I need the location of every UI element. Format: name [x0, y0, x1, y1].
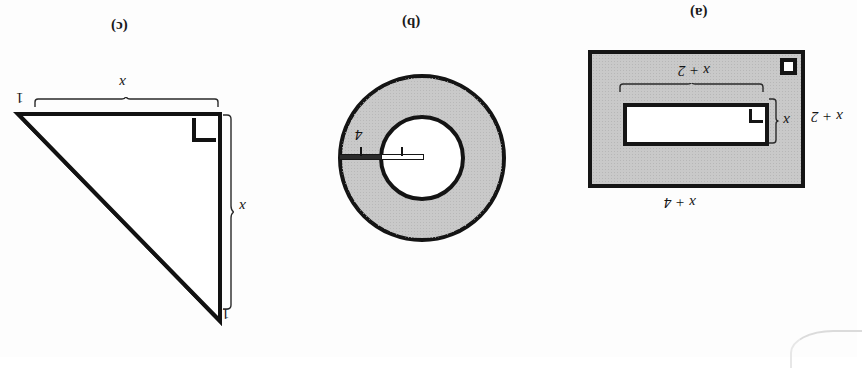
part-label-c: (c): [111, 18, 128, 35]
triangle-shape-c: [4, 112, 234, 337]
dimension-brace-inner-height-a: [768, 98, 779, 144]
part-label-b: (b): [402, 14, 420, 31]
dimension-label-vertical-leg-c: x: [239, 198, 246, 215]
right-angle-marker-inner-a: [749, 109, 763, 123]
dimension-brace-inner-width-a: [619, 83, 764, 93]
tick-ring-width-b: [360, 147, 362, 156]
dimension-label-horizontal-leg-c: x: [119, 74, 126, 91]
dimension-label-inner-height-a: x: [783, 112, 790, 129]
dimension-label-outer-width-a: x + 4: [664, 194, 696, 211]
tick-inner-radius-b: [401, 147, 403, 156]
dimension-label-ring-width-b: 4: [355, 126, 363, 143]
dimension-brace-horizontal-leg-c: [34, 97, 219, 108]
triangle-outline-c: [18, 114, 220, 321]
scan-artifact: [790, 330, 862, 368]
dimension-label-inner-width-a: x + 2: [678, 62, 710, 79]
dimension-label-strip-top-c: 1: [16, 89, 24, 106]
inner-rectangle-a: [623, 103, 769, 146]
dimension-brace-vertical-leg-c: [222, 114, 234, 310]
right-angle-marker-outer-a: [780, 58, 797, 75]
dimension-label-outer-height-a: x + 2: [811, 108, 843, 125]
part-label-a: (a): [690, 4, 708, 21]
